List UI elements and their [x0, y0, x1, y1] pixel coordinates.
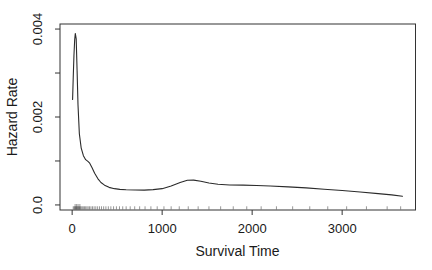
plot-box: [60, 24, 416, 210]
rug-marks: [73, 204, 400, 210]
x-tick-label: 0: [69, 221, 76, 236]
series-lines: [73, 33, 403, 196]
y-tick-label: 0.004: [30, 13, 45, 46]
x-axis-label: Survival Time: [195, 243, 279, 259]
chart-svg: 0.00.0020.004 0100020003000 Survival Tim…: [0, 0, 432, 270]
y-tick-label: 0.0: [30, 196, 45, 214]
y-axis: 0.00.0020.004: [30, 13, 60, 214]
x-tick-label: 1000: [148, 221, 177, 236]
y-axis-label: Hazard Rate: [4, 77, 20, 156]
x-axis: 0100020003000: [69, 210, 357, 236]
hazard-curve: [73, 33, 403, 196]
x-tick-label: 3000: [328, 221, 357, 236]
x-tick-label: 2000: [238, 221, 267, 236]
y-tick-label: 0.002: [30, 101, 45, 134]
hazard-rate-figure: 0.00.0020.004 0100020003000 Survival Tim…: [0, 0, 432, 270]
